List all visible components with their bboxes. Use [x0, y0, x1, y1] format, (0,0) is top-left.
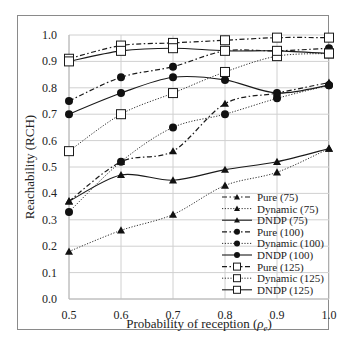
data-point-circle-marker-icon: [65, 208, 73, 216]
data-point-triangle-marker-icon: [117, 226, 125, 233]
series-line: [69, 48, 329, 101]
data-point-circle-marker-icon: [65, 97, 73, 105]
data-point-circle-marker-icon: [325, 81, 333, 89]
legend-label: DNDP (125): [257, 284, 313, 297]
y-tick-label: 0.1: [42, 266, 57, 280]
data-point-circle-marker-icon: [117, 73, 125, 81]
legend-square-marker-icon: [234, 275, 241, 282]
data-point-circle-marker-icon: [221, 110, 229, 118]
y-tick-label: 0.8: [42, 81, 57, 95]
data-point-square-marker-icon: [169, 44, 178, 53]
data-point-triangle-marker-icon: [221, 100, 229, 107]
data-point-square-marker-icon: [65, 147, 74, 156]
y-tick-label: 0.6: [42, 134, 57, 148]
data-point-square-marker-icon: [325, 33, 334, 42]
data-point-square-marker-icon: [117, 110, 126, 119]
data-point-square-marker-icon: [221, 46, 230, 55]
y-tick-label: 0.3: [42, 213, 57, 227]
y-tick-label: 1.0: [42, 28, 57, 42]
data-point-triangle-marker-icon: [325, 145, 333, 152]
data-point-square-marker-icon: [221, 36, 230, 45]
data-point-triangle-marker-icon: [169, 211, 177, 218]
y-tick-label: 0.0: [42, 292, 57, 306]
y-tick-label: 0.5: [42, 160, 57, 174]
legend-square-marker-icon: [234, 286, 241, 293]
data-point-square-marker-icon: [117, 46, 126, 55]
y-tick-label: 0.7: [42, 107, 57, 121]
series-dndp-100: [65, 73, 333, 118]
legend-square-marker-icon: [234, 263, 241, 270]
data-point-square-marker-icon: [221, 67, 230, 76]
data-point-square-marker-icon: [65, 57, 74, 66]
x-axis-title: Probability of reception (ρe): [126, 316, 272, 333]
data-point-triangle-marker-icon: [221, 181, 229, 188]
x-tick-label: 1.0: [322, 308, 337, 322]
data-point-circle-marker-icon: [117, 89, 125, 97]
data-point-circle-marker-icon: [169, 123, 177, 131]
data-point-circle-marker-icon: [169, 63, 177, 71]
data-point-square-marker-icon: [273, 33, 282, 42]
data-point-triangle-marker-icon: [169, 147, 177, 154]
legend-item: DNDP (125): [222, 284, 313, 297]
x-tick-label: 0.5: [62, 308, 77, 322]
data-point-circle-marker-icon: [221, 76, 229, 84]
data-point-circle-marker-icon: [117, 158, 125, 166]
y-tick-label: 0.4: [42, 186, 57, 200]
data-point-square-marker-icon: [273, 46, 282, 55]
series-line: [69, 53, 329, 151]
series-line: [69, 83, 329, 202]
y-axis-title: Reachability (RCH): [22, 115, 37, 219]
data-point-triangle-marker-icon: [65, 247, 73, 254]
series-dynamic-125: [65, 49, 334, 156]
legend: Pure (75)Dynamic (75)DNDP (75)Pure (100)…: [222, 191, 324, 297]
legend-circle-marker-icon: [234, 229, 240, 235]
series-line: [69, 37, 329, 58]
data-point-square-marker-icon: [169, 89, 178, 98]
legend-circle-marker-icon: [234, 240, 240, 246]
series-pure-125: [65, 33, 334, 63]
data-point-circle-marker-icon: [273, 89, 281, 97]
legend-circle-marker-icon: [234, 252, 240, 258]
data-point-square-marker-icon: [325, 49, 334, 58]
data-point-circle-marker-icon: [65, 110, 73, 118]
data-point-circle-marker-icon: [169, 73, 177, 81]
y-axis-ticks: 0.00.10.20.30.40.50.60.70.80.91.0: [42, 28, 57, 306]
y-tick-label: 0.9: [42, 54, 57, 68]
reachability-line-chart: 0.00.10.20.30.40.50.60.70.80.91.0 0.50.6…: [0, 0, 356, 360]
series-pure-75: [65, 79, 333, 205]
data-point-triangle-marker-icon: [273, 168, 281, 175]
y-tick-label: 0.2: [42, 239, 57, 253]
